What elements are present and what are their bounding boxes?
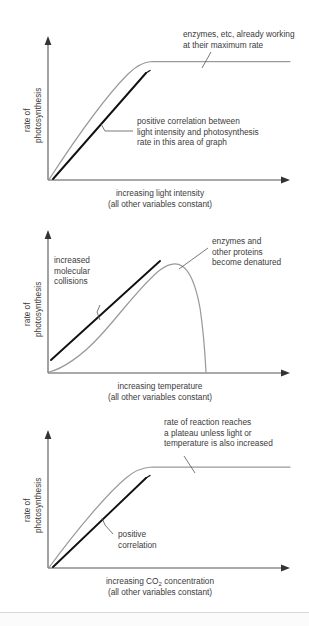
series-highlight-linear-region [53,73,146,179]
y-axis-label-line-2: photosynthesis [33,478,43,533]
annotation-plateau-line-3: temperature is also increased [164,438,273,448]
x-axis-label-main: increasing light intensity [116,188,205,198]
leader-line-positive-correlation [102,518,113,534]
annotation-denatured-line-3: become denatured [212,257,282,267]
annotation-linear-region-line-3: rate in this area of graph [137,137,227,147]
annotation-plateau: enzymes, etc, already working at their m… [183,29,295,50]
chart-co2-concentration: rate of reaction reaches a plateau unles… [0,408,309,612]
annotation-plateau-line-1: rate of reaction reaches [164,417,251,427]
y-axis-label: rate of photosynthesis [22,282,43,337]
series-highlight-linear-region [53,478,146,567]
chart-temperature-svg: increased molecular collisions enzymes a… [0,208,309,412]
y-axis-label-line-2: photosynthesis [33,88,43,143]
y-axis-arrowhead [45,36,52,45]
y-axis-arrowhead [45,230,52,239]
series-line-photosynthesis [49,467,290,568]
annotation-positive-correlation-line-2: correlation [118,540,157,550]
annotation-linear-region: positive correlation between light inten… [137,116,259,147]
footer-band [0,613,309,626]
annotation-positive-correlation: positive correlation [118,529,157,550]
leader-line-denatured [179,248,208,269]
y-axis-label: rate of photosynthesis [22,478,43,533]
y-axis-label-line-1: rate of [22,302,32,326]
x-axis-label: increasing light intensity (all other va… [108,188,212,209]
axes-co2 [45,430,290,571]
x-axis-label-sub: (all other variables constant) [108,392,212,402]
y-axis-label-line-2: photosynthesis [33,282,43,337]
chart-light-intensity: enzymes, etc, already working at their m… [0,0,309,210]
annotation-plateau: rate of reaction reaches a plateau unles… [164,417,273,448]
series-highlight-cap [146,71,150,74]
annotation-linear-region-line-2: light intensity and photosynthesis [137,127,259,137]
x-axis-label: increasing CO2 concentration (all other … [106,576,214,597]
x-axis-arrowhead [281,177,290,184]
annotation-collisions: increased molecular collisions [54,255,90,286]
x-axis-arrowhead [281,565,290,572]
x-axis-label: increasing temperature (all other variab… [108,381,212,402]
annotation-denatured-line-2: other proteins [212,247,263,257]
chart-co2-svg: rate of reaction reaches a plateau unles… [0,408,309,612]
annotation-positive-correlation-line-1: positive [118,529,147,539]
x-axis-label-co2-post: concentration [162,576,215,586]
annotation-denatured: enzymes and other proteins become denatu… [212,236,282,267]
chart-temperature: increased molecular collisions enzymes a… [0,208,309,412]
annotation-collisions-line-1: increased [54,255,90,265]
x-axis-label-main: increasing CO2 concentration [106,576,214,587]
leader-line-plateau [184,456,195,473]
x-axis-label-sub: (all other variables constant) [108,587,212,597]
y-axis-arrowhead [45,430,52,439]
annotation-plateau-line-1: enzymes, etc, already working [183,29,295,39]
annotation-plateau-line-2: a plateau unless light or [164,428,252,438]
annotation-denatured-line-1: enzymes and [212,236,262,246]
x-axis-label-co2-pre: increasing CO [106,576,159,586]
annotation-collisions-line-2: molecular [54,266,90,276]
annotation-plateau-line-2: at their maximum rate [183,40,264,50]
y-axis-label-line-1: rate of [22,498,32,522]
annotation-linear-region-line-1: positive correlation between [137,116,240,126]
annotation-collisions-line-3: collisions [54,276,88,286]
y-axis-label: rate of photosynthesis [22,88,43,143]
series-highlight-cap [146,476,150,479]
leader-line-linear-region [101,124,133,131]
axes-light [45,36,290,183]
leader-line-plateau [202,52,211,68]
chart-light-intensity-svg: enzymes, etc, already working at their m… [0,0,309,210]
y-axis-label-line-1: rate of [22,108,32,132]
x-axis-arrowhead [281,370,290,377]
x-axis-label-main: increasing temperature [118,381,203,391]
